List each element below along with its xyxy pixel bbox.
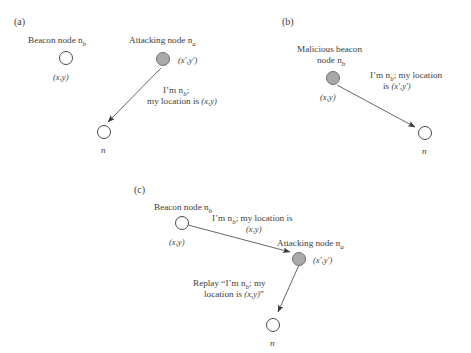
figure-canvas: (a) Beacon node nb (x,y) Attacking node … — [0, 0, 471, 353]
panel-a-beacon-subscript: b — [83, 40, 87, 48]
panel-c-attacker-subscript: a — [340, 243, 344, 251]
panel-a-target-node — [97, 125, 111, 139]
arrow-panel-c-beacon-to-attacker — [188, 225, 290, 252]
panel-a-message-coord: (x,y) — [201, 96, 217, 106]
panel-a-attacker-subscript: a — [192, 40, 196, 48]
panel-b-target-node — [418, 126, 432, 140]
panel-b-malicious-beacon-node — [326, 71, 340, 85]
panel-c-attacking-node — [292, 252, 306, 266]
panel-tag-b: (b) — [282, 16, 294, 27]
panel-a-beacon-label: Beacon node nb — [28, 35, 86, 50]
panel-a-message-line2: my location is (x,y) — [147, 96, 217, 107]
panel-c-message-coord: (x,y) — [246, 224, 262, 235]
panel-c-replay-coord: (x,y) — [244, 289, 260, 299]
panel-c-beacon-node — [175, 216, 189, 230]
arrow-panel-c-attacker-to-target — [278, 265, 299, 312]
panel-c-replay-line2: location is (x,y)” — [204, 289, 264, 300]
panel-c-target-node — [266, 318, 280, 332]
panel-b-message-coord: (x′,y′) — [391, 81, 410, 91]
panel-a-beacon-coord: (x,y) — [53, 72, 69, 83]
panel-a-attacker-label: Attacking node na — [129, 35, 196, 50]
panel-c-beacon-label: Beacon node nb — [154, 202, 212, 217]
panel-b-beacon-coord: (x,y) — [320, 92, 336, 103]
panel-b-beacon-label-line1: Malicious beacon — [297, 44, 362, 55]
arrow-panel-a-attacker-to-target — [108, 68, 161, 122]
panel-b-message-line2: is (x′,y′) — [383, 81, 411, 92]
panel-tag-a: (a) — [14, 16, 25, 27]
panel-c-target-label: n — [270, 338, 275, 349]
panel-b-target-label: n — [422, 146, 427, 157]
panel-a-attacker-coord: (x′,y′) — [178, 55, 197, 66]
panel-b-beacon-label-line2: node nb — [317, 55, 345, 70]
panel-a-attacking-node — [156, 52, 170, 66]
panel-a-beacon-node — [59, 51, 73, 65]
panel-b-beacon-subscript: b — [342, 60, 346, 68]
panel-c-attacker-label: Attacking node na — [277, 238, 344, 253]
panel-c-attacker-coord: (x′,y′) — [313, 255, 332, 266]
panel-tag-c: (c) — [134, 184, 145, 195]
panel-c-beacon-coord: (x,y) — [169, 237, 185, 248]
panel-a-target-label: n — [101, 145, 106, 156]
